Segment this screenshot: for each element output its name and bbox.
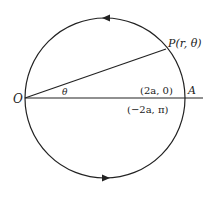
label-coord-a-neg: (−2a, π) [127,104,169,115]
label-angle: θ [62,87,68,97]
label-coord-a-pos: (2a, 0) [140,85,173,96]
label-point-a: A [187,84,196,97]
arrow-left-icon [102,15,110,22]
label-point-p: P(r, θ) [167,37,202,50]
label-origin: O [13,92,23,106]
arrow-right-icon [102,175,110,182]
polar-circle-diagram: O P(r, θ) θ A (2a, 0) (−2a, π) [0,0,216,211]
